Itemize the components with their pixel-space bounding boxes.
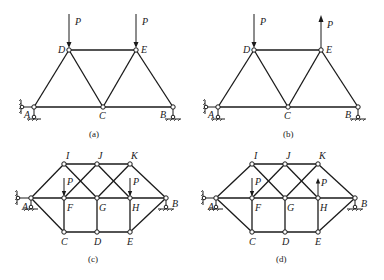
load-arrow-up-icon — [316, 178, 320, 196]
figure-b: P P — [203, 14, 366, 139]
node-label-f: F — [66, 202, 74, 213]
node-label-b: B — [361, 198, 367, 209]
figure-c: P P — [15, 150, 178, 264]
node-label-g: G — [287, 202, 294, 213]
load-label: P — [326, 19, 333, 30]
load-label: P — [74, 16, 81, 27]
node-label-a: A — [207, 109, 215, 120]
load-arrow-down-icon — [62, 178, 66, 197]
node-label-j: J — [286, 150, 291, 161]
node-label-k: K — [130, 150, 139, 161]
node-label-d: D — [281, 236, 290, 247]
load-label: P — [254, 176, 261, 187]
load-arrow-down-icon — [250, 178, 254, 197]
node-label-a: A — [207, 201, 215, 212]
node-label-i: I — [253, 150, 258, 161]
node-label-d: D — [93, 236, 102, 247]
load-label: P — [259, 16, 266, 27]
node-label-d: D — [57, 44, 66, 55]
node-label-c: C — [284, 110, 291, 121]
node-label-e: E — [126, 236, 133, 247]
node-label-e: E — [314, 236, 321, 247]
figure-d: P P — [201, 150, 367, 264]
figure-caption: (b) — [283, 129, 294, 139]
load-arrow-down-icon — [134, 14, 139, 48]
node-label-c: C — [61, 236, 68, 247]
node-label-g: G — [99, 202, 106, 213]
node-label-k: K — [318, 150, 327, 161]
load-label: P — [66, 176, 73, 187]
load-label: P — [132, 176, 139, 187]
node-label-a: A — [21, 201, 29, 212]
node-label-a: A — [23, 109, 31, 120]
node-label-c: C — [249, 236, 256, 247]
truss-members-b — [218, 50, 358, 107]
node-label-d: D — [242, 44, 251, 55]
figure-caption: (a) — [89, 129, 99, 139]
node-label-b: B — [160, 109, 166, 120]
truss-members-a — [34, 50, 173, 107]
node-label-f: F — [254, 202, 262, 213]
node-label-c: C — [99, 110, 106, 121]
node-label-e: E — [140, 44, 147, 55]
node-label-b: B — [172, 198, 178, 209]
figure-a: P P — [19, 14, 181, 139]
node-label-h: H — [131, 202, 140, 213]
node-label-j: J — [98, 150, 103, 161]
load-label: P — [141, 16, 148, 27]
node-label-i: I — [65, 150, 70, 161]
node-label-e: E — [325, 44, 332, 55]
truss-diagrams: P P — [0, 0, 384, 280]
figure-caption: (d) — [276, 254, 287, 264]
truss-nodes-b — [216, 48, 360, 109]
load-arrow-down-icon — [128, 178, 132, 197]
node-label-h: H — [319, 202, 328, 213]
figure-caption: (c) — [88, 254, 98, 264]
node-label-b: B — [345, 109, 351, 120]
truss-nodes-a — [32, 48, 175, 109]
load-arrow-down-icon — [67, 14, 72, 48]
load-label: P — [320, 177, 327, 188]
load-arrow-up-icon — [319, 15, 324, 48]
load-arrow-down-icon — [252, 14, 257, 48]
